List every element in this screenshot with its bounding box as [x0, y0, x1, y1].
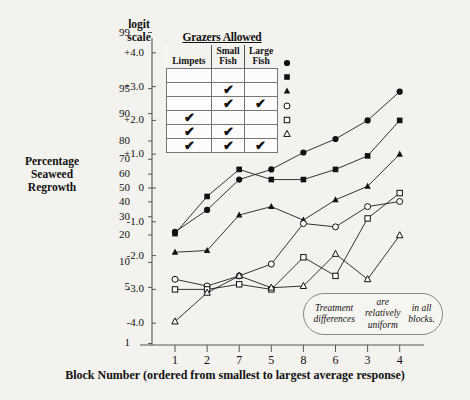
data-point-filled-square-5	[269, 177, 275, 183]
x-tick-label-7: 7	[227, 353, 251, 368]
data-point-filled-circle-6	[332, 136, 338, 142]
x-tick-label-6: 6	[324, 353, 348, 368]
data-point-open-circle-3	[365, 204, 371, 210]
data-point-open-circle-5	[268, 261, 274, 267]
legend-table: Grazers Allowed LimpetsSmallFishLargeFis…	[166, 31, 278, 153]
legend-cell-large_fish	[244, 69, 277, 83]
x-tick-label-1: 1	[163, 353, 187, 368]
annotation-line-0: Treatment differences	[310, 303, 358, 326]
filled-square-icon	[284, 74, 290, 80]
legend-grid: LimpetsSmallFishLargeFish ✔✔✔✔✔✔✔✔✔	[166, 45, 278, 153]
legend-column-label: Large	[245, 46, 278, 56]
legend-cell-limpets	[167, 83, 212, 97]
data-point-open-square-4	[397, 190, 402, 195]
legend-cell-small_fish	[212, 69, 245, 83]
filled-circle-icon	[284, 60, 290, 66]
data-point-filled-triangle-4	[397, 151, 403, 157]
legend-marker-column	[281, 56, 297, 141]
legend-title: Grazers Allowed	[166, 31, 278, 43]
data-point-filled-circle-4	[397, 89, 403, 95]
legend-column-label: Small	[212, 46, 244, 56]
filled-triangle-icon	[284, 88, 290, 94]
data-point-open-square-1	[172, 287, 177, 292]
legend-row: ✔	[167, 111, 278, 125]
chart-figure: PercentageSeaweedRegrowth logitscale Blo…	[0, 0, 470, 400]
percent-tick-label-80: 80	[96, 134, 130, 146]
legend-column-label: Limpets	[167, 56, 212, 66]
x-tick-label-2: 2	[195, 353, 219, 368]
legend-cell-large_fish	[244, 111, 277, 125]
x-tick-label-5: 5	[259, 353, 283, 368]
y-axis-title: PercentageSeaweedRegrowth	[6, 155, 98, 194]
legend-column-label: Fish	[245, 56, 278, 66]
y-axis-title-line-2: Regrowth	[6, 181, 98, 194]
check-icon: ✔	[223, 96, 234, 111]
data-point-filled-circle-2	[204, 207, 210, 213]
legend-cell-small_fish	[212, 111, 245, 125]
data-point-open-circle-4	[397, 199, 403, 205]
data-point-filled-circle-8	[300, 149, 306, 155]
legend-header-row: LimpetsSmallFishLargeFish	[167, 45, 278, 69]
legend-marker-filled-circle	[281, 56, 297, 70]
annotation-line-1: are relatively uniform	[358, 297, 407, 332]
data-point-filled-square-6	[333, 167, 339, 173]
data-point-filled-circle-5	[268, 166, 274, 172]
x-axis-title: Block Number (ordered from smallest to l…	[0, 368, 470, 383]
logit-tick-label--4.0: -4.0	[108, 316, 144, 328]
percent-tick-label-20: 20	[96, 228, 130, 240]
data-point-filled-square-1	[172, 231, 178, 237]
data-point-filled-square-2	[204, 194, 210, 200]
legend-body: ✔✔✔✔✔✔✔✔✔	[167, 69, 278, 153]
annotation-line-2: in all blocks.	[407, 303, 436, 326]
percent-tick-label-99: 99	[96, 26, 130, 38]
legend-cell-limpets: ✔	[167, 125, 212, 139]
legend-cell-small_fish: ✔	[212, 139, 245, 153]
legend-column-2: LargeFish	[244, 45, 277, 69]
x-tick-label-4: 4	[388, 353, 412, 368]
legend-cell-large_fish: ✔	[244, 139, 277, 153]
check-icon: ✔	[223, 82, 234, 97]
legend-marker-open-triangle	[281, 127, 297, 141]
legend-cell-limpets	[167, 69, 212, 83]
data-point-filled-triangle-5	[268, 203, 274, 209]
legend-cell-small_fish: ✔	[212, 83, 245, 97]
check-icon: ✔	[223, 124, 234, 139]
legend-column-1: SmallFish	[212, 45, 245, 69]
legend-cell-large_fish	[244, 83, 277, 97]
legend-marker-open-square	[281, 113, 297, 127]
legend-cell-large_fish: ✔	[244, 97, 277, 111]
data-point-open-square-7	[237, 282, 242, 287]
data-point-filled-square-8	[301, 177, 307, 183]
legend-row: ✔✔	[167, 125, 278, 139]
legend-marker-filled-square	[281, 70, 297, 84]
logit-tick-label-0: 0	[108, 181, 144, 193]
legend-cell-limpets: ✔	[167, 111, 212, 125]
logit-tick-label-+3.0: +3.0	[108, 80, 144, 92]
legend-cell-small_fish: ✔	[212, 97, 245, 111]
data-point-filled-triangle-1	[172, 249, 178, 255]
data-point-open-square-6	[333, 273, 338, 278]
data-point-open-circle-6	[333, 224, 339, 230]
data-point-filled-square-3	[365, 153, 371, 159]
data-point-open-circle-8	[300, 220, 306, 226]
data-point-open-square-8	[301, 255, 306, 260]
legend-row: ✔✔✔	[167, 139, 278, 153]
annotation-callout: Treatment differencesare relatively unif…	[303, 293, 443, 335]
percent-tick-label-40: 40	[96, 195, 130, 207]
legend-column-0: Limpets	[167, 45, 212, 69]
series-filled-triangle	[172, 151, 403, 255]
legend-row: ✔	[167, 83, 278, 97]
data-point-filled-circle-3	[365, 117, 371, 123]
open-circle-icon	[284, 103, 290, 109]
data-point-filled-square-7	[236, 167, 242, 173]
logit-tick-label-+4.0: +4.0	[108, 46, 144, 58]
check-icon: ✔	[255, 138, 266, 153]
x-tick-label-3: 3	[356, 353, 380, 368]
logit-tick-label-+2.0: +2.0	[108, 113, 144, 125]
logit-tick-label-+1.0: +1.0	[108, 147, 144, 159]
open-square-icon	[284, 117, 289, 122]
legend-cell-large_fish	[244, 125, 277, 139]
percent-tick-label-60: 60	[96, 167, 130, 179]
logit-tick-label--1.0: -1.0	[108, 215, 144, 227]
data-point-open-triangle-1	[172, 318, 178, 324]
